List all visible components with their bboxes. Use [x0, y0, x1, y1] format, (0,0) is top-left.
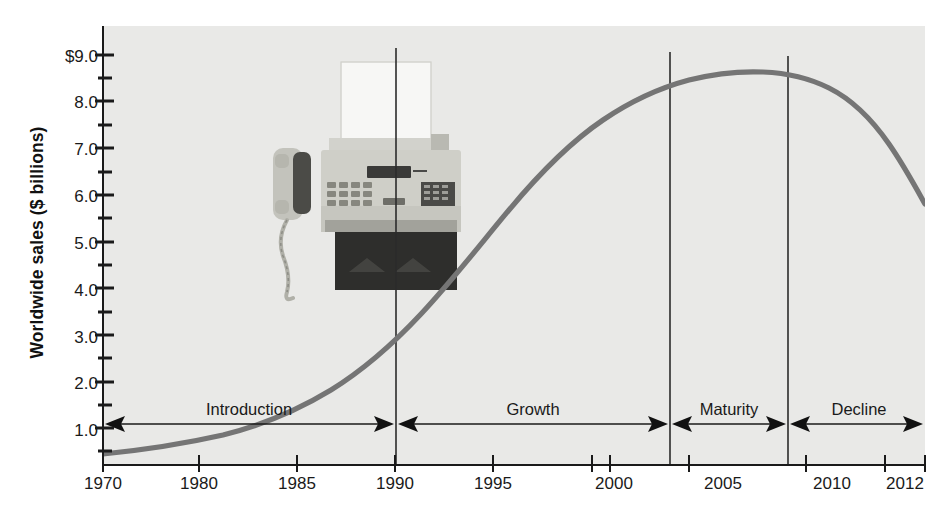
x-tick-label-1985: 1985	[278, 474, 316, 494]
y-minor-ticks	[98, 78, 112, 451]
x-tick-label-2010: 2010	[813, 474, 851, 494]
axes-layer	[0, 0, 942, 517]
x-axis-ticks	[103, 455, 925, 472]
product-life-cycle-chart: Worldwide sales ($ billions) $9.0 8.0 7.…	[0, 0, 942, 517]
x-tick-label-2000: 2000	[595, 474, 633, 494]
x-tick-label-1990: 1990	[376, 474, 414, 494]
x-tick-label-1995: 1995	[474, 474, 512, 494]
x-tick-label-2005: 2005	[704, 474, 742, 494]
x-tick-label-1980: 1980	[180, 474, 218, 494]
x-tick-label-1970: 1970	[84, 474, 122, 494]
x-tick-label-2012: 2012	[886, 474, 924, 494]
y-major-ticks	[95, 55, 114, 428]
